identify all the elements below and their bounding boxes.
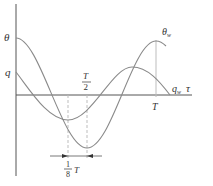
tau-label: τ	[186, 82, 191, 94]
arrow-right-icon	[62, 154, 68, 158]
t-label: T	[152, 101, 159, 112]
half-t-numerator: T	[83, 71, 89, 81]
eighth-t-label: T	[74, 165, 80, 175]
q-curve	[16, 67, 170, 120]
eighth-numerator: 1	[66, 160, 70, 169]
eighth-denominator: 8	[66, 170, 70, 179]
theta-w-label: θw	[162, 26, 171, 38]
half-t-denominator: 2	[84, 82, 89, 92]
q-label: q	[5, 66, 11, 78]
arrow-left-icon	[87, 154, 93, 158]
theta-curve	[16, 38, 166, 148]
wave-diagram: θ q θw qw τ T 2 T 1 8 T	[0, 0, 213, 186]
q-w-label: qw	[172, 83, 181, 95]
theta-label: θ	[4, 31, 10, 43]
